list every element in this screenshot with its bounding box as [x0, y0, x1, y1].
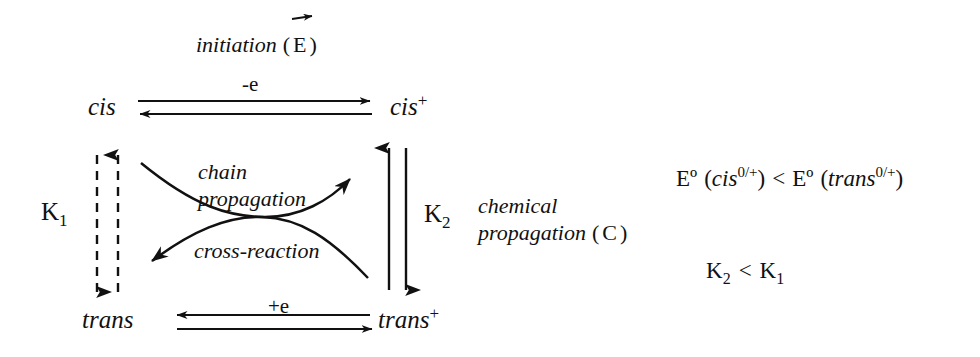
cross-reaction-label: cross-reaction — [194, 239, 319, 264]
potential-sup-right: 0/+ — [875, 164, 895, 180]
constant-left-base: K — [706, 258, 723, 283]
potential-paren-open-left: ( — [704, 166, 712, 191]
potential-operator: < — [772, 166, 785, 191]
potential-e-left: Eº — [676, 166, 697, 191]
k2-subscript: 2 — [442, 213, 451, 232]
chemical-propagation-line-1: chemical — [478, 194, 627, 219]
top-arrow-condition-label: -e — [242, 73, 258, 97]
species-cis: cis — [88, 93, 116, 121]
right-solid-equilibrium-arrows — [389, 148, 406, 290]
potential-species-left: cis — [712, 166, 738, 191]
species-cis-cation-charge: + — [418, 91, 428, 110]
initiation-paren-open: ( — [283, 32, 290, 57]
constant-left-sub: 2 — [723, 270, 731, 287]
species-cis-cation-base: cis — [390, 93, 418, 120]
chain-propagation-label: chain propagation — [198, 160, 306, 211]
potential-e-right: Eº — [792, 166, 813, 191]
potential-paren-close-right: ) — [896, 166, 904, 191]
chemical-propagation-text: propagation — [478, 220, 586, 245]
potential-paren-close-left: ) — [758, 166, 766, 191]
chemical-propagation-paren-open: ( — [592, 220, 599, 245]
initiation-symbol: E — [293, 32, 306, 57]
initiation-label: initiation(E) — [196, 33, 317, 58]
chemical-propagation-paren-close: ) — [620, 220, 627, 245]
potential-relation: Eº(cis0/+)<Eº(trans0/+) — [676, 166, 903, 192]
potential-species-right: trans — [828, 166, 875, 191]
initiation-text: initiation — [196, 32, 277, 57]
k2-base: K — [424, 200, 442, 227]
chain-propagation-line-1: chain — [198, 160, 306, 185]
top-equilibrium-arrows — [138, 101, 372, 114]
species-trans-cation: trans+ — [378, 306, 439, 334]
initiation-paren-close: ) — [309, 32, 316, 57]
constant-operator: < — [739, 258, 752, 283]
species-cis-cation: cis+ — [390, 93, 427, 121]
potential-paren-open-right: ( — [820, 166, 828, 191]
chemical-propagation-symbol: C — [602, 220, 617, 245]
chemical-propagation-line-2: propagation(C) — [478, 221, 627, 246]
chain-propagation-line-2: propagation — [198, 187, 306, 212]
reaction-scheme-diagram: initiation(E) -e +e cis cis+ trans trans… — [0, 0, 980, 357]
bottom-arrow-condition-label: +e — [268, 295, 289, 319]
equilibrium-constant-k2: K2 — [424, 200, 451, 228]
potential-sup-left: 0/+ — [737, 164, 757, 180]
species-trans: trans — [82, 306, 133, 334]
species-trans-cation-base: trans — [378, 306, 429, 333]
k1-base: K — [41, 198, 59, 225]
chemical-propagation-label: chemical propagation(C) — [478, 194, 627, 245]
constant-relation: K2<K1 — [706, 258, 784, 284]
constant-right-sub: 1 — [776, 270, 784, 287]
initiation-vector-arrow-icon — [292, 16, 312, 19]
equilibrium-constant-k1: K1 — [41, 198, 68, 226]
species-trans-cation-charge: + — [429, 304, 439, 323]
left-dashed-equilibrium-arrows — [97, 155, 118, 292]
constant-right-base: K — [760, 258, 777, 283]
k1-subscript: 1 — [59, 211, 68, 230]
